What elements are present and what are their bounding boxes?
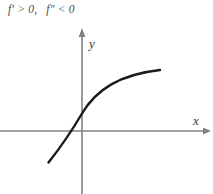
x-axis-label: x: [192, 113, 199, 128]
x-axis-arrowhead: [203, 128, 211, 135]
math-figure: f′ > 0,f″ < 0 y x: [0, 0, 213, 194]
function-curve: [49, 70, 161, 163]
y-axis-label: y: [87, 36, 95, 51]
y-axis-arrowhead: [79, 28, 86, 37]
coordinate-plot: y x: [0, 0, 213, 194]
